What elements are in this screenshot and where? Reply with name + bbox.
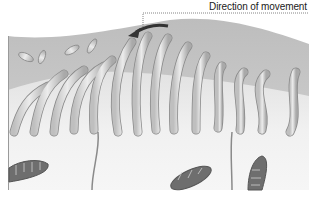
cell-boundary [231, 132, 232, 190]
cilia-illustration [0, 0, 317, 198]
